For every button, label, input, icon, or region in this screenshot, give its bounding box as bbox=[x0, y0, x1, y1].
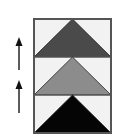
middle-band bbox=[34, 57, 111, 95]
top-band bbox=[34, 19, 111, 57]
arrows-group bbox=[16, 37, 23, 113]
bands-group bbox=[34, 19, 111, 133]
lower-arrow-icon bbox=[16, 80, 23, 113]
upper-arrow-icon bbox=[16, 37, 23, 70]
bottom-band bbox=[34, 95, 111, 133]
stacked-triangles-diagram bbox=[0, 0, 121, 140]
